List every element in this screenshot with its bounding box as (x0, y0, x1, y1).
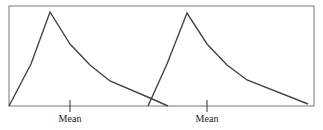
mean-label-2: Mean (196, 113, 219, 124)
distribution-curve-2 (148, 13, 308, 106)
mean-label-1: Mean (59, 113, 82, 124)
plot-frame (9, 6, 314, 106)
distribution-curve-1 (9, 12, 168, 106)
skewed-distributions-diagram (0, 0, 323, 130)
